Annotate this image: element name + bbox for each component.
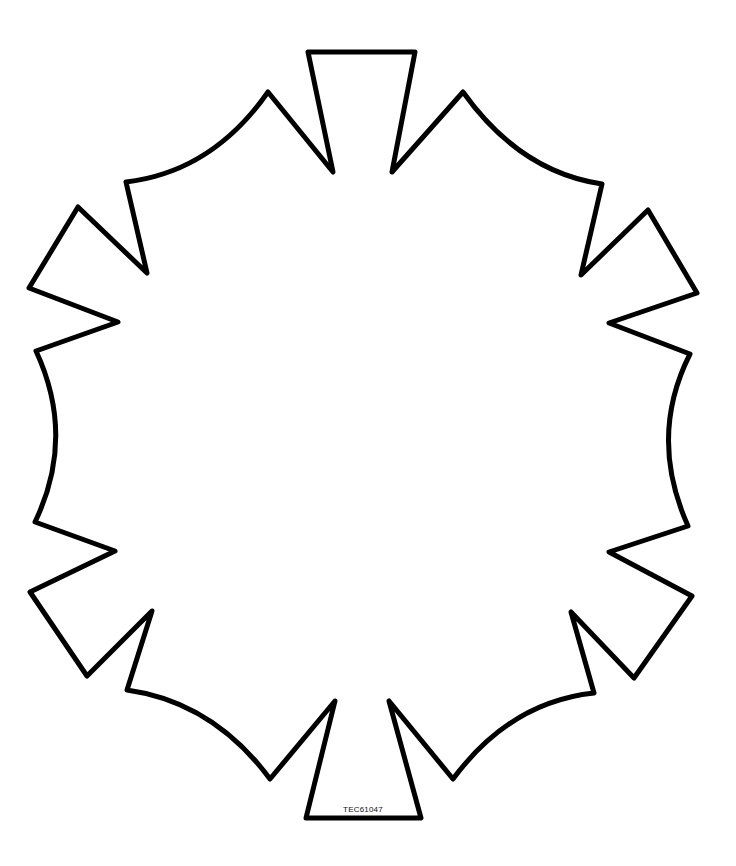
template-code-label: TEC61047 [318, 805, 408, 814]
snowflake-outline-canvas [0, 0, 736, 866]
snowflake-outline-shape [29, 52, 697, 818]
